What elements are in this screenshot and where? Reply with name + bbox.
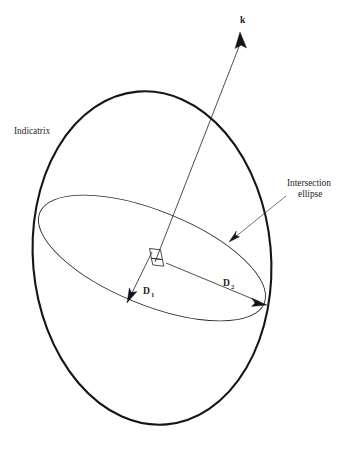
d1-label: D 1 [143, 285, 154, 298]
d1-label-subscript: 1 [151, 291, 154, 298]
indicatrix-diagram: Indicatrix Intersection ellipse k D 1 D … [0, 0, 359, 449]
intersection-ellipse-label-line1: Intersection [287, 178, 331, 188]
wave-vector-arrow [155, 32, 247, 262]
indicatrix-label: Indicatrix [14, 126, 50, 136]
intersection-ellipse-label-line2: ellipse [298, 189, 322, 199]
diagram-canvas: Indicatrix Intersection ellipse k D 1 D … [0, 0, 359, 449]
d2-label-base: D [223, 277, 230, 288]
wave-vector-label: k [240, 14, 246, 25]
d2-label-subscript: 2 [231, 283, 235, 290]
d2-vector-arrow [166, 263, 267, 306]
d1-label-base: D [143, 285, 150, 296]
d2-label: D 2 [223, 277, 235, 290]
intersection-ellipse-leader [229, 196, 286, 242]
